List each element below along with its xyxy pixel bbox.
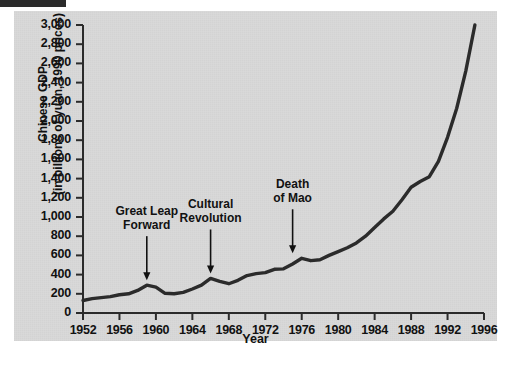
y-axis-tick-label: 200 xyxy=(14,286,71,300)
x-axis-title: Year xyxy=(0,332,511,346)
gdp-data-line xyxy=(83,25,475,301)
annotation-label-death-of-mao: Death of Mao xyxy=(238,178,348,205)
figure-container: 3,0002,8002,6002,4002,2002,0001,8001,600… xyxy=(0,0,511,366)
y-axis-title: Chinese GDP(in billions of yuan, 1990 pr… xyxy=(36,0,66,219)
x-axis-ticks xyxy=(83,313,484,320)
y-axis-tick-label: 600 xyxy=(14,247,71,261)
y-axis-tick-label: 800 xyxy=(14,228,71,242)
y-axis-title-line1: Chinese GDP xyxy=(36,66,50,142)
y-axis-tick-label: 400 xyxy=(14,267,71,281)
annotation-arrow-head xyxy=(143,272,150,280)
y-axis-title-line2: (in billions of yuan, 1990 prices) xyxy=(51,13,65,195)
chart-plot-svg xyxy=(14,11,497,341)
annotation-arrow-head xyxy=(207,265,214,273)
annotation-arrow-head xyxy=(289,245,296,253)
y-axis-tick-label: 0 xyxy=(14,305,71,319)
y-axis-ticks xyxy=(76,25,83,313)
chart-panel: 3,0002,8002,6002,4002,2002,0001,8001,600… xyxy=(14,11,497,341)
